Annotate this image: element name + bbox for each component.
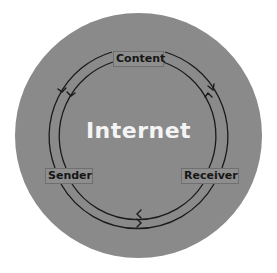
- arrow-inner-bottom-icon: [137, 210, 141, 218]
- internet-cycle-diagram: Internet Content Sender Receiver: [0, 0, 277, 273]
- inner-arc-content-sender: [59, 62, 113, 168]
- node-content: Content: [113, 51, 164, 67]
- internet-title: Internet: [80, 118, 197, 144]
- outer-arc-sender-content: [49, 52, 112, 168]
- outer-arc-content-receiver: [165, 52, 228, 168]
- node-receiver: Receiver: [181, 168, 239, 184]
- arrow-inner-right-icon: [205, 93, 212, 97]
- inner-arc-receiver-content: [163, 62, 216, 168]
- node-sender: Sender: [45, 168, 93, 184]
- outer-arc-receiver-sender: [61, 184, 214, 229]
